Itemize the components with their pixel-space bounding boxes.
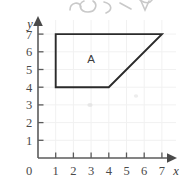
y-tick-labels: 1 2 3 4 5 6 7 — [26, 28, 33, 148]
x-tick-label: 2 — [70, 164, 76, 178]
y-tick-label: 6 — [26, 45, 32, 59]
x-tick-label: 5 — [123, 164, 129, 178]
arrow-up-icon — [33, 16, 43, 26]
x-axis-label: x — [172, 164, 179, 178]
origin-label: 0 — [26, 164, 32, 178]
coordinate-plot: A y x 0 1 2 3 4 5 6 7 1 2 3 4 5 6 7 — [0, 0, 185, 187]
x-tick-label: 4 — [106, 164, 113, 178]
y-tick-label: 5 — [26, 63, 32, 77]
y-tick-label: 3 — [26, 98, 32, 112]
y-tick-label: 7 — [26, 28, 32, 42]
y-tick-label: 2 — [26, 116, 32, 130]
x-tick-label: 1 — [53, 164, 59, 178]
x-tick-label: 7 — [159, 164, 165, 178]
x-tick-label: 6 — [141, 164, 147, 178]
shape-a-label: A — [87, 53, 95, 65]
y-tick-label: 4 — [26, 81, 33, 95]
y-tick-label: 1 — [26, 134, 32, 148]
x-tick-labels: 1 2 3 4 5 6 7 — [53, 164, 165, 178]
x-tick-label: 3 — [88, 164, 94, 178]
screenshot-canvas: A y x 0 1 2 3 4 5 6 7 1 2 3 4 5 6 7 — [0, 0, 185, 187]
arrow-right-icon — [167, 153, 177, 163]
